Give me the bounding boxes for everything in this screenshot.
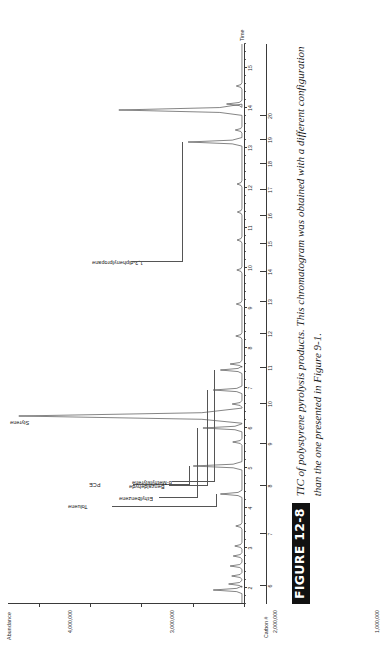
figure-number-tag: FIGURE 12-8 bbox=[292, 503, 310, 604]
x-tick-minor bbox=[244, 251, 246, 252]
x-tick-minor bbox=[244, 291, 246, 292]
x-tick-minor bbox=[244, 379, 246, 380]
leader-line bbox=[159, 497, 197, 498]
y-tick-label: 4,000,000 bbox=[67, 610, 73, 633]
x-tick-minor bbox=[244, 435, 246, 436]
y-axis-title: Abundance bbox=[6, 612, 12, 640]
carbon-tick bbox=[260, 243, 266, 244]
carbon-tick-label: 6 bbox=[267, 585, 273, 588]
x-tick-minor bbox=[244, 403, 246, 404]
y-tick: 2,000,000 bbox=[141, 604, 142, 607]
x-tick-minor bbox=[244, 299, 246, 300]
secondary-x-axis-line bbox=[266, 44, 267, 604]
x-tick-minor bbox=[244, 395, 246, 396]
carbon-tick bbox=[260, 367, 266, 368]
rotated-figure-canvas: Abundance 01,000,0002,000,0003,000,0004,… bbox=[0, 0, 388, 650]
x-tick-label: 9 bbox=[247, 307, 253, 310]
x-tick-minor bbox=[244, 283, 246, 284]
x-tick-minor bbox=[244, 499, 246, 500]
carbon-tick bbox=[260, 333, 266, 334]
x-tick-label: 6 bbox=[247, 427, 253, 430]
x-tick-label: 12 bbox=[247, 185, 253, 191]
carbon-tick-label: 18 bbox=[267, 161, 273, 167]
leader-line bbox=[182, 142, 183, 262]
peak-label: Styrene bbox=[10, 420, 29, 426]
leader-line bbox=[172, 481, 214, 482]
carbon-tick-label: 12 bbox=[267, 331, 273, 337]
y-tick: 3,000,000 bbox=[90, 604, 91, 607]
x-tick-minor bbox=[244, 155, 246, 156]
x-tick-minor bbox=[244, 571, 246, 572]
x-tick-minor bbox=[244, 91, 246, 92]
x-tick-minor bbox=[244, 371, 246, 372]
x-tick-label: 15 bbox=[247, 65, 253, 71]
x-tick-minor bbox=[244, 51, 246, 52]
y-tick: 1,000,000 bbox=[193, 604, 194, 607]
x-tick-minor bbox=[244, 59, 246, 60]
x-tick-minor bbox=[244, 211, 246, 212]
x-tick-label: 14 bbox=[247, 105, 253, 111]
x-tick-label: 2 bbox=[247, 587, 253, 590]
y-tick: 4,000,000 bbox=[39, 604, 40, 607]
x-tick-minor bbox=[244, 539, 246, 540]
x-tick-minor bbox=[244, 259, 246, 260]
figure-caption-block: FIGURE 12-8 TIC of polystyrene pyrolysis… bbox=[292, 0, 384, 650]
leader-line bbox=[112, 506, 216, 507]
x-axis-line bbox=[244, 44, 245, 604]
secondary-x-axis-title: Carbon # bbox=[263, 617, 269, 638]
x-tick-minor bbox=[244, 483, 246, 484]
carbon-tick-label: 14 bbox=[267, 269, 273, 275]
carbon-tick bbox=[260, 301, 266, 302]
x-tick-label: 7 bbox=[247, 387, 253, 390]
y-tick-label: 2,000,000 bbox=[272, 610, 278, 633]
x-tick-minor bbox=[244, 123, 246, 124]
x-tick-minor bbox=[244, 139, 246, 140]
x-tick-minor bbox=[244, 275, 246, 276]
y-tick-label: 3,000,000 bbox=[169, 610, 175, 633]
carbon-tick bbox=[260, 115, 266, 116]
chromatogram-trace bbox=[8, 44, 244, 604]
x-tick-label: 4 bbox=[247, 507, 253, 510]
x-tick-minor bbox=[244, 323, 246, 324]
carbon-tick-label: 8 bbox=[267, 485, 273, 488]
x-tick-minor bbox=[244, 131, 246, 132]
x-tick-label: 5 bbox=[247, 467, 253, 470]
x-tick-minor bbox=[244, 75, 246, 76]
x-tick-minor bbox=[244, 563, 246, 564]
x-tick-minor bbox=[244, 411, 246, 412]
x-tick-minor bbox=[244, 331, 246, 332]
x-tick-minor bbox=[244, 515, 246, 516]
x-tick-minor bbox=[244, 43, 246, 44]
carbon-tick-label: 17 bbox=[267, 187, 273, 193]
x-tick-minor bbox=[244, 523, 246, 524]
x-tick-minor bbox=[244, 355, 246, 356]
x-tick-minor bbox=[244, 603, 246, 604]
carbon-tick bbox=[260, 485, 266, 486]
carbon-tick-label: 7 bbox=[267, 533, 273, 536]
leader-line bbox=[169, 485, 207, 486]
x-tick-minor bbox=[244, 219, 246, 220]
carbon-tick bbox=[260, 271, 266, 272]
leader-line bbox=[132, 261, 182, 262]
x-tick-minor bbox=[244, 235, 246, 236]
x-tick-minor bbox=[244, 203, 246, 204]
carbon-tick-label: 15 bbox=[267, 241, 273, 247]
leader-line bbox=[207, 390, 208, 486]
x-tick-label: 8 bbox=[247, 347, 253, 350]
figure-page: Abundance 01,000,0002,000,0003,000,0004,… bbox=[0, 0, 388, 650]
x-tick-minor bbox=[244, 163, 246, 164]
x-tick-minor bbox=[244, 555, 246, 556]
x-tick-label: 11 bbox=[247, 225, 253, 230]
x-tick-minor bbox=[244, 451, 246, 452]
x-tick-minor bbox=[244, 243, 246, 244]
x-tick-minor bbox=[244, 459, 246, 460]
carbon-tick bbox=[260, 533, 266, 534]
x-tick-label: 10 bbox=[247, 265, 253, 271]
x-tick-minor bbox=[244, 531, 246, 532]
leader-line bbox=[189, 466, 190, 485]
x-tick-minor bbox=[244, 195, 246, 196]
x-tick-minor bbox=[244, 491, 246, 492]
x-tick-minor bbox=[244, 475, 246, 476]
leader-line bbox=[216, 494, 217, 507]
x-tick-minor bbox=[244, 419, 246, 420]
